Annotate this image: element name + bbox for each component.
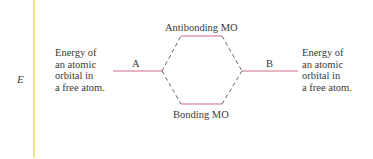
dashed-antibonding-to-b	[222, 36, 242, 71]
correlation-lines	[162, 36, 242, 104]
right-description-line-1: Energy of	[302, 47, 352, 59]
energy-axis-label: E	[17, 73, 24, 85]
antibonding-mo-label: Antibonding MO	[165, 22, 238, 34]
left-description-line-2: an atomic	[55, 59, 105, 71]
right-orbital-description: Energy of an atomic orbital in a free at…	[302, 47, 352, 93]
left-description-line-1: Energy of	[55, 47, 105, 59]
orbital-label-b: B	[266, 58, 273, 70]
right-description-line-3: orbital in	[302, 70, 352, 82]
left-description-line-4: a free atom.	[55, 82, 105, 94]
dashed-a-to-antibonding	[162, 36, 181, 71]
dashed-a-to-bonding	[162, 71, 181, 104]
dashed-bonding-to-b	[222, 71, 242, 104]
left-orbital-description: Energy of an atomic orbital in a free at…	[55, 47, 105, 93]
orbital-label-a: A	[132, 58, 140, 70]
left-description-line-3: orbital in	[55, 70, 105, 82]
right-description-line-2: an atomic	[302, 59, 352, 71]
bonding-mo-label: Bonding MO	[173, 109, 229, 121]
right-description-line-4: a free atom.	[302, 82, 352, 94]
